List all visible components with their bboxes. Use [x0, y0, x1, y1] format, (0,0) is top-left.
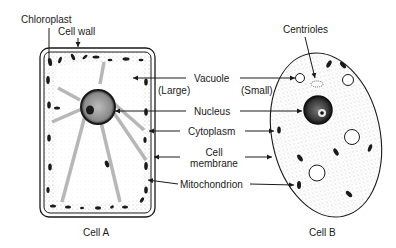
cell-a-nucleolus — [86, 106, 94, 115]
label-centrioles: Centrioles — [283, 24, 328, 35]
caption-cell-b: Cell B — [309, 227, 336, 238]
diagram-canvas — [0, 0, 396, 248]
cell-a-nucleus — [81, 90, 115, 124]
label-cell-membrane: Cell membrane — [186, 147, 242, 169]
cell-b-nucleolus-core — [320, 111, 324, 115]
label-vacuole-large: (Large) — [158, 85, 190, 96]
label-cell-membrane-line1: Cell — [186, 147, 242, 158]
cell-b-nucleus — [304, 96, 332, 124]
label-vacuole: Vacuole — [194, 73, 229, 84]
cell-b — [240, 37, 396, 227]
label-cell-membrane-line2: membrane — [186, 158, 242, 169]
cell-a — [40, 28, 186, 217]
caption-cell-a: Cell A — [83, 227, 109, 238]
label-cell-wall: Cell wall — [58, 26, 95, 37]
cell-diagram: Chloroplast Cell wall Centrioles Vacuole… — [0, 0, 396, 248]
label-mitochondrion: Mitochondrion — [180, 179, 243, 190]
label-chloroplast: Chloroplast — [21, 14, 72, 25]
label-vacuole-small: (Small) — [241, 85, 273, 96]
label-cytoplasm: Cytoplasm — [188, 126, 235, 137]
cell-b-membrane — [256, 43, 396, 228]
centrioles — [311, 81, 323, 87]
label-nucleus: Nucleus — [194, 106, 230, 117]
